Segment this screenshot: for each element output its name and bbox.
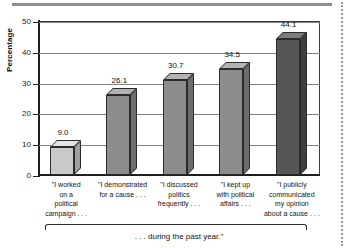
bar[interactable]: 26.1 [106,95,130,175]
bar-top-face [163,73,187,80]
bar-value-label: 30.7 [153,62,199,70]
bar-front-face [163,80,187,175]
bar-value-label: 34.5 [209,51,255,59]
bar-side-face [243,69,250,175]
x-category-label-line: political [31,199,101,209]
chart-figure: Percentage 01020304050 9.026.130.734.544… [0,0,348,248]
bar-top-face [50,140,74,147]
x-category-label: "I publiclycommunicatedmy opinionabout a… [257,180,327,218]
bar[interactable]: 9.0 [50,147,74,175]
bar-group: 9.0 [38,21,94,175]
x-category-label-line: "I publicly [257,180,327,190]
y-tick-label: 50 [22,18,31,26]
bar-top-face [106,88,130,95]
bar-group: 30.7 [151,21,207,175]
bar-value-label: 44.1 [266,21,312,29]
chart-caption: . . . during the past year." [38,232,320,242]
bar-side-face [130,95,137,175]
x-category-label-line: campaign . . . [31,209,101,219]
y-tick-label: 20 [22,110,31,118]
x-category-label-line: my opinion [257,199,327,209]
bar-group: 34.5 [207,21,263,175]
bar[interactable]: 34.5 [219,69,243,175]
bar-front-face [219,69,243,175]
bar-top-face [219,62,243,69]
y-tick-label: 10 [22,141,31,149]
bar-front-face [106,95,130,175]
bar-front-face [50,147,74,175]
bar-side-face [74,147,81,175]
bar-front-face [276,39,300,175]
bar-top-face [276,32,300,39]
y-tick-label: 40 [22,49,31,57]
y-tick-mark [33,176,39,177]
y-tick-label: 30 [22,80,31,88]
bar[interactable]: 44.1 [276,39,300,175]
bar[interactable]: 30.7 [163,80,187,175]
y-axis-title: Percentage [5,28,14,72]
top-divider-rule [12,3,332,6]
plot-area: 01020304050 9.026.130.734.544.1 [38,21,320,176]
bar-value-label: 26.1 [96,77,142,85]
x-category-label-line: communicated [257,190,327,200]
x-axis-category-labels: "I workedon apoliticalcampaign . . ."I d… [38,180,320,224]
bar-group: 44.1 [264,21,320,175]
bar-group: 26.1 [94,21,150,175]
y-tick-label: 0 [27,172,31,180]
category-group-bracket [45,224,307,230]
bar-side-face [187,80,194,175]
bar-side-face [300,39,307,175]
bar-series: 9.026.130.734.544.1 [38,21,320,176]
x-category-label-line: about a cause . . . [257,209,327,219]
bar-value-label: 9.0 [40,129,86,137]
page-margin-dotted-line [341,2,343,246]
